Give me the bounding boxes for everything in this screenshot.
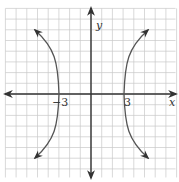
tick-label-neg3: −3: [52, 96, 68, 109]
hyperbola-graph: y x −3 3: [0, 0, 179, 182]
tick-label-3: 3: [124, 96, 131, 109]
y-axis-label: y: [95, 19, 103, 32]
x-axis-label: x: [169, 96, 176, 109]
